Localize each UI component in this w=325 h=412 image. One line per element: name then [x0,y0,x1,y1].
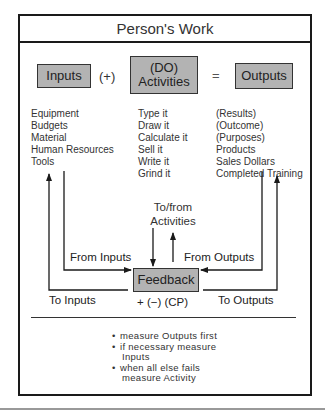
to-from-line2: Activities [138,214,208,228]
note-text: measure Outputs first [120,330,217,341]
note-text: if necessary measure [120,341,216,352]
from-inputs-label: From Inputs [70,251,131,263]
to-from-activities-label: To/from Activities [138,200,208,228]
bullet-icon: • [112,342,116,353]
to-inputs-arrow [49,174,128,290]
to-inputs-label: To Inputs [49,294,96,306]
from-outputs-label: From Outputs [184,251,254,263]
note-text: when all else fails [120,362,200,373]
note-continuation: measure Activity [112,373,217,384]
cp-label: + (−) (CP) [137,296,188,308]
to-outputs-label: To Outputs [218,294,274,306]
to-outputs-arrow [203,176,277,290]
bullet-icon: • [112,331,116,342]
section-divider [31,317,296,318]
page-bottom-rule [0,408,325,410]
feedback-box: Feedback [133,268,199,292]
feedback-label: Feedback [137,273,194,287]
measurement-notes: •measure Outputs first •if necessary mea… [112,331,217,384]
to-from-line1: To/from [138,200,208,214]
bullet-icon: • [112,363,116,374]
